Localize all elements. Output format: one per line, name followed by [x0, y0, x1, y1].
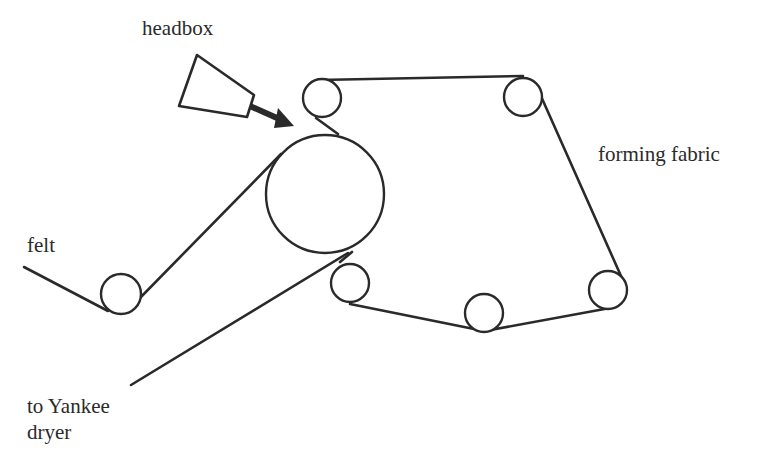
paper-machine-diagram: headbox forming fabric felt to Yankee dr… [0, 0, 762, 470]
fabric-roll-top-left [303, 79, 341, 117]
fabric-roll-bottom-left [331, 264, 369, 302]
to-yankee-label-line1: to Yankee [27, 394, 110, 419]
forming-roll [266, 135, 384, 253]
felt-label: felt [27, 233, 55, 258]
headbox-icon [179, 55, 294, 128]
forming-fabric-label: forming fabric [598, 142, 720, 167]
fabric-roll-right [589, 271, 627, 309]
fabric-roll-bottom [465, 294, 503, 332]
headbox-label: headbox [142, 16, 213, 41]
felt-path [24, 154, 281, 311]
to-yankee-label-line2: dryer [27, 420, 71, 445]
felt-roll [101, 274, 141, 314]
fabric-roll-top-right [504, 78, 542, 116]
